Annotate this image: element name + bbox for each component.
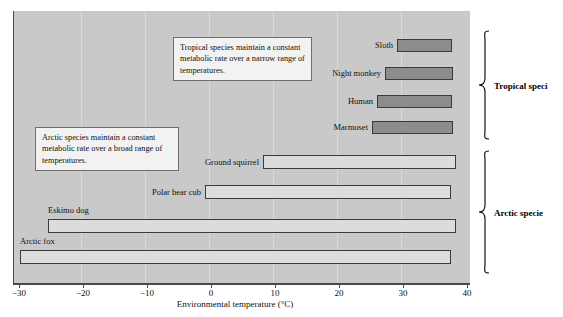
bar-label-polar-bear-cub: Polar bear cub <box>131 188 201 197</box>
x-tick-label-20: 20 <box>335 289 344 298</box>
x-axis-title: Environmental temperature (°C) <box>0 299 470 309</box>
bar-eskimo-dog <box>48 219 456 233</box>
bar-label-ground-squirrel: Ground squirrel <box>185 158 259 167</box>
bar-ground-squirrel <box>263 155 456 169</box>
x-tick-label-minus20: −20 <box>76 289 90 298</box>
x-tick-label-0: 0 <box>209 289 214 298</box>
gridline-20 <box>337 11 338 283</box>
bar-sloth <box>397 39 452 52</box>
bar-label-human: Human <box>313 97 373 106</box>
group-label-tropical: Tropical speci <box>494 81 547 91</box>
brace-tropical <box>478 30 492 140</box>
bar-label-sloth: Sloth <box>337 41 393 50</box>
bar-arctic-fox <box>20 250 451 264</box>
x-tick-label-30: 30 <box>399 289 408 298</box>
x-tick-label-10: 10 <box>271 289 280 298</box>
bar-marmoset <box>372 121 453 134</box>
x-tick-label-40: 40 <box>463 289 472 298</box>
callout-arctic: Arctic species maintain a constant metab… <box>35 127 179 171</box>
brace-arctic <box>478 150 492 274</box>
x-tick-label-minus30: −30 <box>12 289 26 298</box>
bar-label-marmoset: Marmoset <box>306 123 368 132</box>
bar-label-night-monkey: Night monkey <box>315 69 381 78</box>
bar-label-arctic-fox: Arctic fox <box>20 237 90 246</box>
bar-label-eskimo-dog: Eskimo dog <box>48 206 128 215</box>
bar-human <box>377 95 452 108</box>
x-axis-line <box>13 283 470 285</box>
callout-tropical: Tropical species maintain a constant met… <box>173 37 312 81</box>
bar-night-monkey <box>385 67 453 80</box>
group-label-arctic: Arctic specie <box>494 208 543 218</box>
x-tick-label-minus10: −10 <box>140 289 154 298</box>
metabolic-rate-temperature-range-chart: Sloth Night monkey Human Marmoset Ground… <box>0 0 563 317</box>
bar-polar-bear-cub <box>205 185 451 199</box>
